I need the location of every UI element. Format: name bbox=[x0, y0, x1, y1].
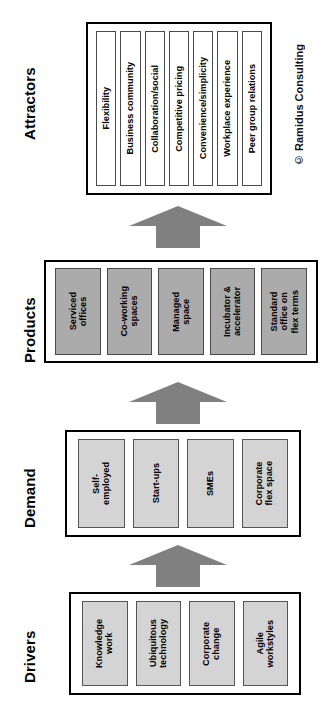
section-drivers: Knowledge work Ubiquitous technology Cor… bbox=[69, 592, 301, 695]
item-box: Ubiquitous technology bbox=[136, 601, 182, 686]
item-label: Business community bbox=[125, 62, 135, 154]
item-label: Competitive pricing bbox=[174, 66, 184, 152]
arrow-products-to-attractors bbox=[129, 206, 227, 248]
item-label: Co-working spaces bbox=[119, 286, 140, 337]
copyright-notice: © Ramidus Consulting bbox=[293, 30, 309, 180]
item-label: Peer group relations bbox=[247, 64, 257, 153]
item-box: Serviced offices bbox=[55, 268, 101, 355]
section-label-attractors: Attractors bbox=[22, 44, 42, 164]
item-box: Collaboration/social bbox=[145, 31, 165, 186]
arrow-drivers-to-demand bbox=[129, 545, 227, 587]
section-products: Serviced offices Co-working spaces Manag… bbox=[44, 260, 318, 363]
item-label: Self- employed bbox=[91, 462, 112, 505]
item-label: Corporate flex space bbox=[254, 461, 275, 505]
item-box: Business community bbox=[120, 31, 140, 186]
item-label: Collaboration/social bbox=[150, 65, 160, 153]
section-demand: Self- employed Start-ups SMEs Corporate … bbox=[65, 430, 301, 537]
item-label: Ubiquitous technology bbox=[148, 619, 169, 668]
item-label: SMEs bbox=[205, 471, 215, 496]
item-box: Convenience/simplicity bbox=[193, 31, 213, 186]
item-box: Self- employed bbox=[78, 439, 125, 528]
item-box: Standard office on flex terms bbox=[261, 268, 307, 355]
section-label-demand: Demand bbox=[22, 448, 42, 548]
item-label: Standard office on flex terms bbox=[269, 290, 300, 333]
section-label-drivers: Drivers bbox=[22, 612, 42, 702]
item-label: Convenience/simplicity bbox=[198, 57, 208, 159]
item-box: Workplace experience bbox=[217, 31, 237, 186]
section-attractors: Flexibility Business community Collabora… bbox=[86, 22, 272, 195]
item-box: Corporate change bbox=[189, 601, 235, 686]
item-box: Agile workstyles bbox=[243, 601, 289, 686]
item-label: Start-ups bbox=[151, 463, 161, 503]
section-label-products: Products bbox=[22, 280, 42, 380]
item-box: Managed space bbox=[158, 268, 204, 355]
item-box: Competitive pricing bbox=[169, 31, 189, 186]
item-label: Incubator & accelerator bbox=[222, 286, 243, 337]
item-label: Serviced offices bbox=[68, 292, 89, 330]
item-label: Flexibility bbox=[101, 87, 111, 129]
item-box: Incubator & accelerator bbox=[210, 268, 256, 355]
item-label: Workplace experience bbox=[222, 60, 232, 157]
item-box: SMEs bbox=[187, 439, 234, 528]
item-label: Knowledge work bbox=[94, 619, 115, 668]
item-box: Flexibility bbox=[96, 31, 116, 186]
item-box: Knowledge work bbox=[82, 601, 128, 686]
item-box: Start-ups bbox=[133, 439, 180, 528]
item-label: Corporate change bbox=[201, 622, 222, 666]
item-label: Managed space bbox=[171, 292, 192, 332]
item-box: Co-working spaces bbox=[107, 268, 153, 355]
item-label: Agile workstyles bbox=[255, 620, 276, 668]
item-box: Corporate flex space bbox=[242, 439, 289, 528]
item-box: Peer group relations bbox=[242, 31, 262, 186]
arrow-demand-to-products bbox=[129, 382, 227, 424]
